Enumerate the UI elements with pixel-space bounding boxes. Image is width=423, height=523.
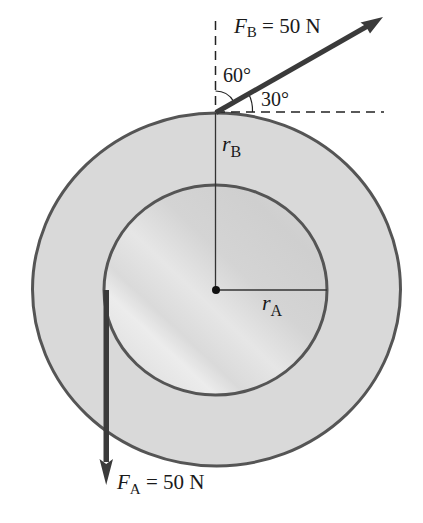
pulley-diagram: FB = 50 N 60° 30° rB rA FA = 50 N — [0, 0, 423, 523]
force-label-FA: FA = 50 N — [116, 470, 204, 497]
force-label-FB: FB = 50 N — [233, 14, 321, 40]
force-FB-magnitude: 50 N — [279, 14, 320, 38]
force-FA-magnitude: 50 N — [163, 470, 204, 494]
radius-rB-subscript: B — [231, 143, 242, 160]
force-FB-subscript: B — [247, 24, 257, 40]
angle-arc-60 — [216, 91, 234, 102]
angle-label-30: 30° — [261, 88, 289, 110]
force-FA-symbol: F — [116, 470, 130, 494]
force-FB-equals: = — [257, 14, 279, 38]
radius-rA-subscript: A — [271, 302, 283, 319]
force-FA-subscript: A — [130, 481, 141, 497]
angle-label-60: 60° — [223, 64, 251, 86]
force-FB-symbol: F — [233, 14, 247, 38]
center-point — [212, 286, 220, 294]
force-FA-equals: = — [141, 470, 163, 494]
